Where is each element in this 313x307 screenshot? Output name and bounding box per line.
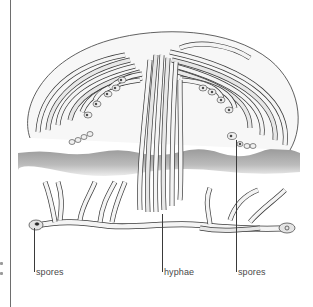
soil-layer [18,148,300,176]
label-spores-right: spores [238,267,266,277]
fungus-illustration [0,0,313,307]
label-hyphae: hyphae [164,267,194,277]
leader-line-spores-right [236,140,237,272]
leader-line-hyphae [162,214,163,272]
label-spores-left: spores [36,267,64,277]
leader-line-spores-left [34,228,35,272]
